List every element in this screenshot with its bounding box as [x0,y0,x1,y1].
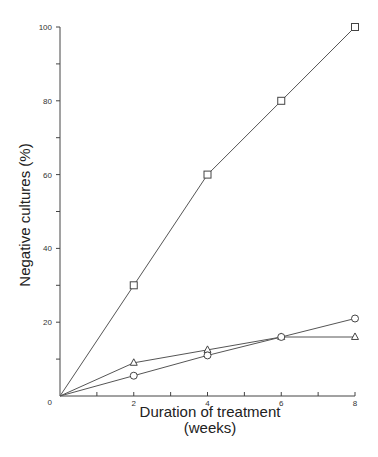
triangle-marker [352,333,359,340]
square-marker [130,282,137,289]
circle-marker [204,352,211,359]
x-tick-label: 2 [132,399,137,408]
y-tick-label: 20 [43,318,52,327]
y-tick-label: 60 [43,171,52,180]
x-axis-title: Duration of treatment [140,403,282,420]
series-line-square [60,27,355,396]
square-marker [352,24,359,31]
x-axis-title-unit: (weeks) [184,419,237,436]
y-tick-label: 40 [43,244,52,253]
square-marker [204,171,211,178]
circle-marker [130,372,137,379]
circle-marker [352,315,359,322]
y-axis-title: Negative cultures (%) [16,143,33,286]
line-chart: 020406080100 2468 Duration of treatment … [0,0,378,457]
square-marker [278,97,285,104]
y-ticks: 020406080100 [39,23,60,407]
y-tick-label: 80 [43,97,52,106]
circle-marker [278,333,285,340]
series-group [60,24,359,397]
x-tick-label: 8 [353,399,358,408]
axes [60,27,355,396]
y-tick-label: 100 [39,23,53,32]
y-tick-label: 0 [48,398,53,407]
